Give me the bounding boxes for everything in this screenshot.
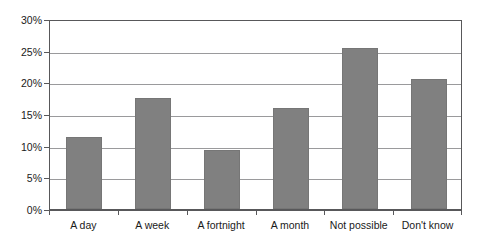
y-axis-tick-label: 15% [0, 110, 42, 121]
bar-slot [50, 21, 119, 209]
x-axis-tick-label: Not possible [330, 219, 388, 231]
bar-chart: 0%5%10%15%20%25%30% A dayA weekA fortnig… [0, 0, 479, 246]
bar-slot [257, 21, 326, 209]
bar[interactable] [273, 108, 309, 209]
x-axis-tick-mark [324, 210, 325, 215]
bar-slot [188, 21, 257, 209]
x-axis-tick-marks [49, 210, 462, 216]
y-axis-tick-label: 0% [0, 205, 42, 216]
bar[interactable] [411, 79, 447, 209]
bar[interactable] [342, 48, 378, 210]
x-axis-tick-label: A fortnight [197, 219, 244, 231]
x-axis-tick-mark [393, 210, 394, 215]
bars-layer [50, 21, 461, 209]
x-axis-tick-label: A week [135, 219, 169, 231]
x-axis-tick-mark [256, 210, 257, 215]
x-axis-tick-label: A day [70, 219, 96, 231]
x-axis-tick-label: A month [271, 219, 310, 231]
x-axis-tick-mark [187, 210, 188, 215]
bar[interactable] [135, 98, 171, 209]
bar[interactable] [204, 150, 240, 209]
y-axis-labels: 0%5%10%15%20%25%30% [0, 0, 42, 246]
y-axis-tick-label: 20% [0, 78, 42, 89]
x-axis-tick-mark [118, 210, 119, 215]
y-axis-tick-label: 10% [0, 141, 42, 152]
x-axis-tick-mark [49, 210, 50, 215]
x-axis-tick-mark [461, 210, 462, 215]
y-axis-tick-label: 25% [0, 46, 42, 57]
bar[interactable] [66, 137, 102, 209]
x-axis-labels: A dayA weekA fortnightA monthNot possibl… [49, 219, 462, 239]
y-axis-tick-label: 5% [0, 173, 42, 184]
bar-slot [394, 21, 463, 209]
bar-slot [325, 21, 394, 209]
plot-area [49, 20, 462, 210]
y-axis-tick-label: 30% [0, 15, 42, 26]
bar-slot [119, 21, 188, 209]
x-axis-tick-label: Don't know [402, 219, 454, 231]
